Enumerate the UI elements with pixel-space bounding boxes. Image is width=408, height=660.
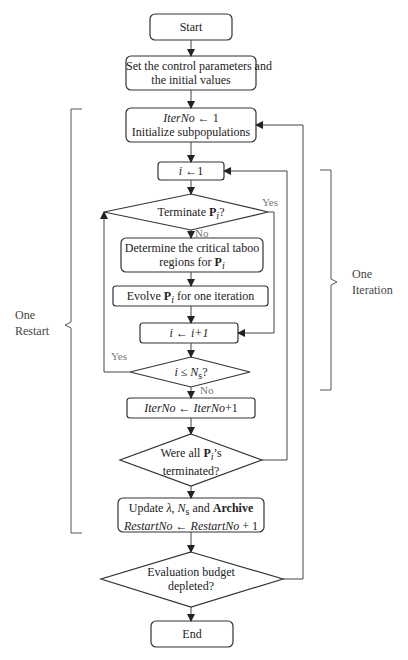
one-iteration-label: One Iteration xyxy=(352,266,393,298)
end-label: End xyxy=(151,627,233,641)
i-init-label: i ←1 xyxy=(158,164,224,178)
iteration-bracket xyxy=(320,170,337,390)
restart-bracket xyxy=(65,109,82,533)
all-terminated-label: Were all Pi’s terminated? xyxy=(130,446,252,478)
ile-yes-label: Yes xyxy=(111,350,127,362)
iterno-init-line1: IterNo ← 1 xyxy=(126,111,256,125)
update-label: Update λ, Ns and Archive RestartNo ← Res… xyxy=(118,501,264,533)
evolve-label: Evolve Pi for one iteration xyxy=(113,289,268,307)
budget-label: Evaluation budget depleted? xyxy=(130,565,252,593)
update-line1: Update λ, Ns and Archive xyxy=(118,501,264,519)
iterno-init-line2: Initialize subpopulations xyxy=(126,125,256,139)
budget-line2: depleted? xyxy=(130,579,252,593)
all-terminated-line1: Were all Pi’s xyxy=(130,446,252,464)
ile-no-label: No xyxy=(200,384,213,396)
i-le-ns-label: i ≤ Ns? xyxy=(150,365,232,383)
set-params-line2: the initial values xyxy=(126,73,256,87)
terminate-no-label: No xyxy=(195,227,208,239)
taboo-line1: Determine the critical taboo xyxy=(121,241,263,255)
terminate-label: Terminate Pi? xyxy=(130,205,252,223)
taboo-line2: regions for Pi xyxy=(121,255,263,273)
budget-line1: Evaluation budget xyxy=(130,565,252,579)
i-inc-label: i ← i+1 xyxy=(140,326,238,340)
set-params-line1: Set the control parameters and xyxy=(126,59,256,73)
one-restart-label: One Restart xyxy=(15,307,49,339)
update-line2: RestartNo ← RestartNo + 1 xyxy=(118,519,264,533)
terminate-yes-label: Yes xyxy=(262,196,278,208)
start-label: Start xyxy=(150,20,232,34)
all-terminated-line2: terminated? xyxy=(130,464,252,478)
taboo-label: Determine the critical taboo regions for… xyxy=(121,241,263,273)
iterno-init-label: IterNo ← 1 Initialize subpopulations xyxy=(126,111,256,139)
set-params-label: Set the control parameters and the initi… xyxy=(126,59,256,87)
iterno-inc-label: IterNo ← IterNo+1 xyxy=(127,401,255,415)
